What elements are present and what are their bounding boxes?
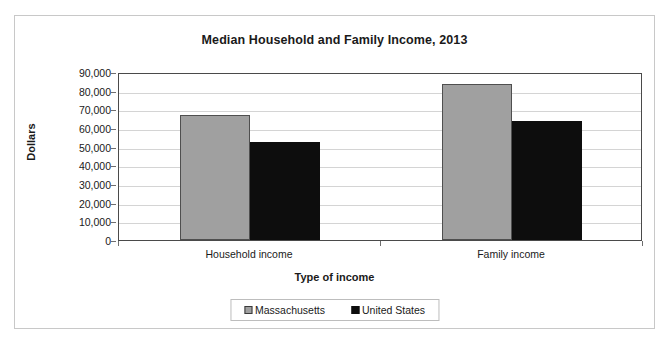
chart-legend: Massachusetts United States: [230, 299, 439, 321]
y-axis-tick-label: 60,000: [79, 124, 111, 135]
x-axis-category-label: Household income: [206, 248, 293, 260]
x-axis-tick-mark: [642, 241, 643, 246]
x-axis-tick-mark: [118, 241, 119, 246]
y-axis-tick-mark: [111, 73, 116, 74]
plot-region: [118, 73, 642, 241]
gridline: [119, 93, 641, 94]
y-axis-tick-label: 70,000: [79, 105, 111, 116]
y-axis-tick-label: 80,000: [79, 86, 111, 97]
y-axis-tick-mark: [111, 241, 116, 242]
legend-item-massachusetts: Massachusetts: [244, 304, 325, 316]
y-axis-tick-label: 50,000: [79, 142, 111, 153]
bar-united-states-family-income: [512, 121, 582, 240]
y-axis-tick-label: 90,000: [79, 68, 111, 79]
y-axis-tick-mark: [111, 92, 116, 93]
plot-area: [118, 73, 642, 241]
x-axis-title: Type of income: [15, 271, 654, 283]
x-axis-tick-mark: [380, 241, 381, 246]
y-axis-tick-mark: [111, 222, 116, 223]
gridline: [119, 111, 641, 112]
y-axis-tick-label: 30,000: [79, 180, 111, 191]
y-axis-tick-mark: [111, 204, 116, 205]
bar-massachusetts-household-income: [180, 115, 250, 240]
y-axis-tick-mark: [111, 129, 116, 130]
legend-item-united-states: United States: [351, 304, 425, 316]
legend-label-united-states: United States: [362, 304, 425, 316]
bar-united-states-household-income: [250, 142, 320, 240]
chart-title: Median Household and Family Income, 2013: [15, 33, 654, 47]
y-axis-tick-mark: [111, 166, 116, 167]
y-axis-tick-label: 10,000: [79, 217, 111, 228]
y-axis-title: Dollars: [25, 102, 37, 182]
y-axis-tick-mark: [111, 110, 116, 111]
legend-label-massachusetts: Massachusetts: [255, 304, 325, 316]
gray-square-swatch-icon: [244, 306, 252, 314]
bar-massachusetts-family-income: [442, 84, 512, 240]
y-axis-tick-label: 20,000: [79, 198, 111, 209]
chart-container: Median Household and Family Income, 2013…: [14, 15, 655, 329]
y-axis-tick-labels: 010,00020,00030,00040,00050,00060,00070,…: [53, 73, 111, 241]
x-axis-category-label: Family income: [477, 248, 545, 260]
y-axis-tick-mark: [111, 148, 116, 149]
black-square-swatch-icon: [351, 306, 359, 314]
y-axis-tick-mark: [111, 185, 116, 186]
y-axis-tick-label: 40,000: [79, 161, 111, 172]
